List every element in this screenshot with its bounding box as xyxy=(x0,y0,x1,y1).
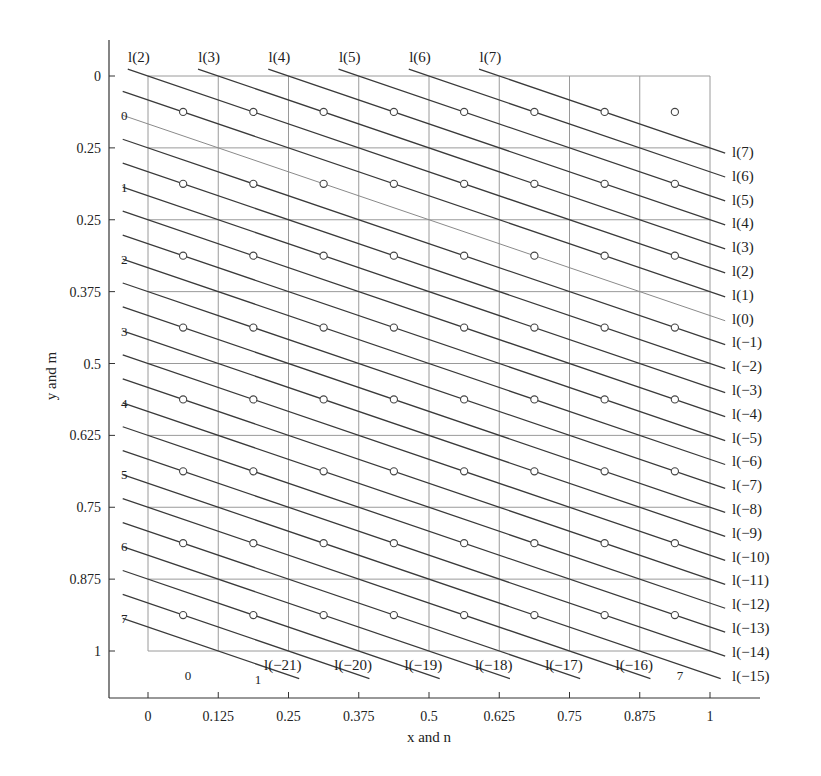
sample-point xyxy=(320,252,327,259)
sample-point xyxy=(320,108,327,115)
sample-point xyxy=(320,540,327,547)
sample-point xyxy=(250,108,257,115)
right-line-label: l(6) xyxy=(732,168,754,185)
line-l--16 xyxy=(123,499,651,679)
bottom-line-label: l(−18) xyxy=(475,657,513,674)
sample-point xyxy=(601,611,608,618)
column-label: 1 xyxy=(255,672,262,687)
x-tick-label: 0 xyxy=(145,709,152,724)
bottom-line-label: l(−21) xyxy=(264,657,302,674)
sample-point xyxy=(461,324,468,331)
sample-point xyxy=(461,252,468,259)
top-line-label: l(3) xyxy=(198,49,220,66)
right-line-label: l(2) xyxy=(732,263,754,280)
right-line-label: l(−5) xyxy=(732,430,762,447)
sample-point xyxy=(531,468,538,475)
x-tick-label: 0.5 xyxy=(420,709,438,724)
x-axis-label: x and n xyxy=(407,729,452,745)
sample-point xyxy=(671,180,678,187)
sample-point xyxy=(390,324,397,331)
sample-point xyxy=(390,108,397,115)
top-line-label: l(5) xyxy=(339,49,361,66)
plot-area: 00.1250.250.3750.50.6250.750.875100.250.… xyxy=(0,0,821,776)
y-tick-label: 0.375 xyxy=(70,285,102,300)
row-label: 7 xyxy=(121,611,128,626)
sample-point xyxy=(180,180,187,187)
sample-point xyxy=(601,468,608,475)
line-l-4 xyxy=(268,69,725,225)
right-line-label: l(−1) xyxy=(732,334,762,351)
sample-point xyxy=(250,540,257,547)
x-tick-label: 0.625 xyxy=(484,709,516,724)
y-axis-label: y and m xyxy=(43,352,59,401)
row-label: 3 xyxy=(121,324,128,339)
y-tick-label: 0.25 xyxy=(77,141,102,156)
sample-point xyxy=(461,540,468,547)
lattice-line-chart: 00.1250.250.3750.50.6250.750.875100.250.… xyxy=(0,0,821,776)
sample-point xyxy=(601,108,608,115)
sample-point xyxy=(461,396,468,403)
sample-point xyxy=(250,252,257,259)
x-tick-label: 0.375 xyxy=(343,709,375,724)
right-line-label: l(−10) xyxy=(732,549,770,566)
y-tick-label: 0.625 xyxy=(70,428,102,443)
bottom-line-label: l(−20) xyxy=(334,657,372,674)
sample-point xyxy=(461,611,468,618)
right-line-label: l(−3) xyxy=(732,382,762,399)
sample-point xyxy=(320,324,327,331)
sample-point xyxy=(461,468,468,475)
sample-point xyxy=(531,611,538,618)
right-line-label: l(−11) xyxy=(732,572,769,589)
top-line-label: l(4) xyxy=(269,49,291,66)
sample-point xyxy=(531,180,538,187)
row-label: 2 xyxy=(121,252,128,267)
x-tick-label: 1 xyxy=(707,709,714,724)
sample-point xyxy=(671,108,678,115)
y-tick-label: 0.25 xyxy=(77,213,102,228)
row-label: 5 xyxy=(121,467,128,482)
x-tick-label: 0.25 xyxy=(276,709,301,724)
y-tick-label: 1 xyxy=(94,644,101,659)
sample-point xyxy=(180,611,187,618)
right-line-label: l(4) xyxy=(732,215,754,232)
sample-point xyxy=(671,540,678,547)
sample-point xyxy=(461,180,468,187)
sample-point xyxy=(390,611,397,618)
sample-point xyxy=(601,540,608,547)
sample-point xyxy=(390,540,397,547)
right-line-label: l(5) xyxy=(732,192,754,209)
y-tick-label: 0 xyxy=(94,69,101,84)
row-label: 0 xyxy=(121,108,128,123)
sample-point xyxy=(320,180,327,187)
sample-point xyxy=(180,396,187,403)
sample-point xyxy=(671,396,678,403)
sample-point xyxy=(320,611,327,618)
line-l--20 xyxy=(123,594,370,678)
bottom-line-label: l(−19) xyxy=(405,657,443,674)
sample-point xyxy=(250,324,257,331)
right-line-label: l(−4) xyxy=(732,406,762,423)
top-line-label: l(6) xyxy=(409,49,431,66)
sample-point xyxy=(180,468,187,475)
line-l-3 xyxy=(198,69,725,249)
y-tick-label: 0.75 xyxy=(77,500,102,515)
sample-point xyxy=(180,108,187,115)
right-line-label: l(−14) xyxy=(732,644,770,661)
sample-point xyxy=(671,252,678,259)
right-line-label: l(1) xyxy=(732,287,754,304)
sample-point xyxy=(320,396,327,403)
sample-point xyxy=(390,180,397,187)
y-tick-label: 0.5 xyxy=(84,357,102,372)
bottom-line-label: l(−17) xyxy=(545,657,583,674)
sample-point xyxy=(250,180,257,187)
sample-point xyxy=(531,396,538,403)
right-line-label: l(3) xyxy=(732,239,754,256)
sample-point xyxy=(671,324,678,331)
right-line-label: l(−15) xyxy=(732,668,770,685)
sample-point xyxy=(601,252,608,259)
line-family xyxy=(123,69,725,679)
row-label: 1 xyxy=(121,180,128,195)
x-tick-label: 0.875 xyxy=(624,709,656,724)
right-line-label: l(−8) xyxy=(732,501,762,518)
right-line-label: l(−13) xyxy=(732,620,770,637)
